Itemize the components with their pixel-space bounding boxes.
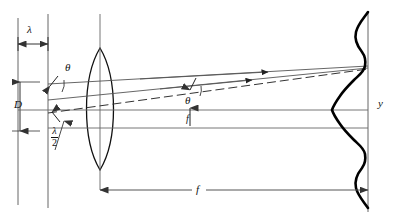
focal-length-label: f bbox=[196, 184, 199, 195]
wavelength-label: λ bbox=[27, 24, 32, 35]
half-wavelength-label: λ 2 bbox=[51, 126, 58, 148]
aperture-diameter-label: D bbox=[14, 99, 22, 110]
slit-bottom-edge-marker bbox=[52, 112, 60, 122]
diffraction-angle-label-midfield: θ bbox=[185, 95, 190, 106]
half-wavelength-denominator: 2 bbox=[51, 138, 58, 149]
angle-arc-midfield bbox=[200, 86, 201, 96]
optics-diagram-figure: λ D θ θ f f y λ 2 bbox=[0, 0, 397, 223]
diffraction-angle-label-aperture: θ bbox=[65, 62, 70, 73]
half-wavelength-numerator: λ bbox=[51, 126, 58, 137]
angle-vertex-marker-midfield bbox=[190, 78, 196, 90]
ray-middle-arrow bbox=[160, 80, 252, 89]
screen-axis-label: y bbox=[378, 98, 383, 109]
angle-arc-aperture bbox=[62, 80, 64, 92]
ray-offset-label: f bbox=[186, 114, 189, 124]
slit-top-edge-marker bbox=[50, 76, 58, 86]
ray-upper-edge-arrow bbox=[140, 72, 268, 79]
